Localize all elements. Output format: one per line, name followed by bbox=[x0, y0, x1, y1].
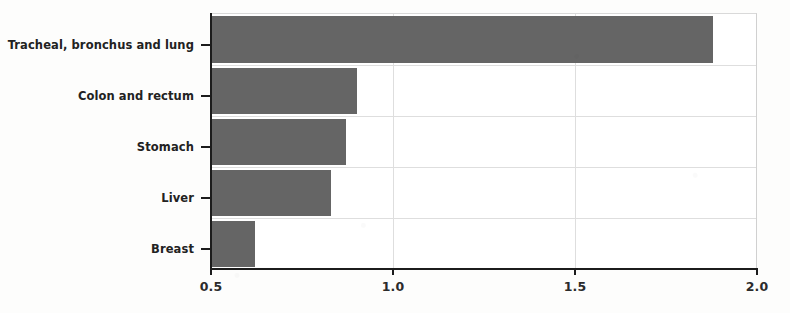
x-axis-tick bbox=[756, 268, 758, 275]
x-axis-tick-label: 1.0 bbox=[382, 279, 405, 294]
gridline-horizontal bbox=[211, 65, 756, 66]
gridline-horizontal bbox=[211, 167, 756, 168]
y-axis-label-breast: Breast bbox=[151, 242, 194, 256]
gridline-horizontal bbox=[211, 218, 756, 219]
bar-tracheal-bronchus-and-lung[interactable] bbox=[211, 16, 713, 63]
y-axis-label-colon-and-rectum: Colon and rectum bbox=[78, 89, 194, 103]
bar-colon-and-rectum[interactable] bbox=[211, 68, 357, 114]
x-axis-line bbox=[211, 268, 758, 270]
y-axis-line bbox=[210, 13, 212, 270]
plot-area bbox=[211, 13, 757, 268]
y-axis-tick bbox=[201, 95, 211, 97]
x-axis-tick-label: 0.5 bbox=[200, 279, 223, 294]
y-axis-label-tracheal-bronchus-and-lung: Tracheal, bronchus and lung bbox=[8, 38, 194, 52]
y-axis-label-stomach: Stomach bbox=[137, 140, 194, 154]
gridline-horizontal bbox=[211, 116, 756, 117]
y-axis-tick bbox=[201, 44, 211, 46]
x-axis-tick bbox=[210, 268, 212, 275]
y-axis-label-liver: Liver bbox=[161, 191, 194, 205]
x-axis-tick bbox=[574, 268, 576, 275]
y-axis-tick bbox=[201, 197, 211, 199]
y-axis-tick bbox=[201, 248, 211, 250]
bar-breast[interactable] bbox=[211, 221, 255, 267]
bar-liver[interactable] bbox=[211, 170, 331, 216]
x-axis-tick bbox=[392, 268, 394, 275]
chart-page: 0.5 1.0 1.5 2.0 Tracheal, bronchus and l… bbox=[0, 0, 790, 313]
x-axis-tick-label: 1.5 bbox=[564, 279, 587, 294]
bar-stomach[interactable] bbox=[211, 119, 346, 165]
y-axis-tick bbox=[201, 146, 211, 148]
x-axis-tick-label: 2.0 bbox=[746, 279, 769, 294]
